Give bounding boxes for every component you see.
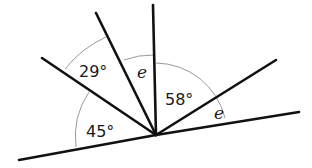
- arc-e-top: [124, 55, 154, 60]
- label-e-top: e: [137, 62, 147, 82]
- label-58: 58°: [165, 90, 193, 109]
- label-45: 45°: [86, 122, 114, 141]
- baseline-right: [156, 112, 299, 135]
- label-e-right: e: [214, 103, 224, 123]
- label-29: 29°: [79, 62, 107, 81]
- ray-vertical: [153, 5, 156, 135]
- angle-diagram: 45° 29° e 58° e: [0, 0, 312, 168]
